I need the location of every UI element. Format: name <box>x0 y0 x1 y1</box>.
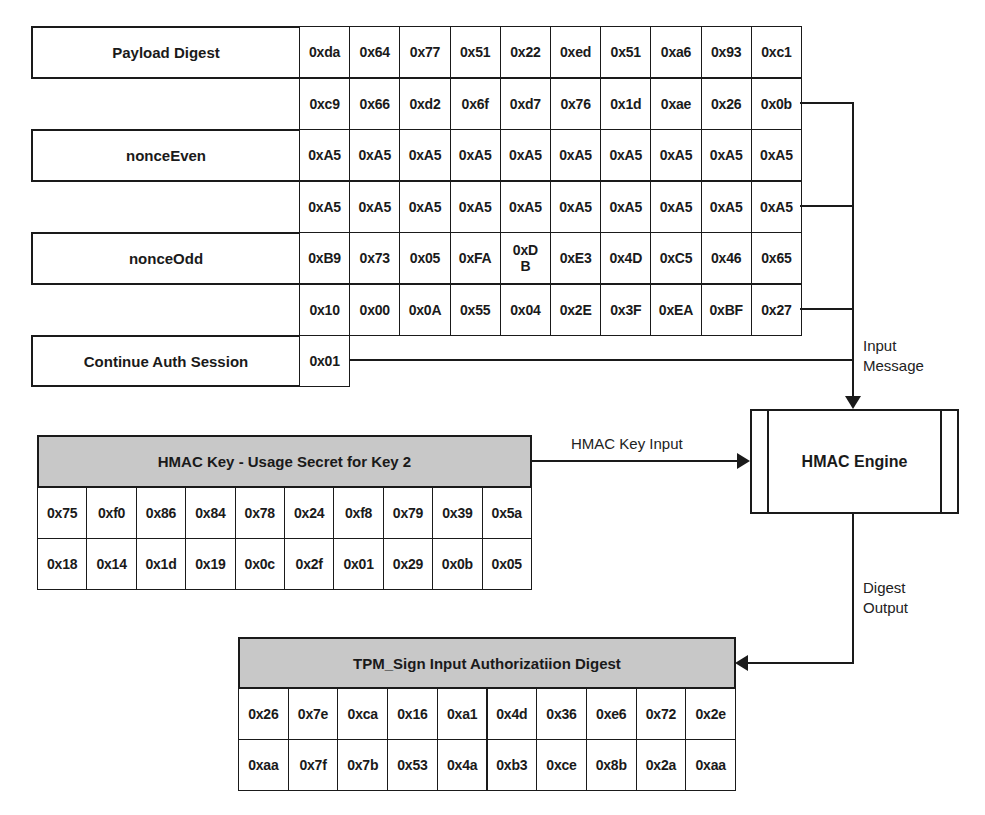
byte-cell: 0xA5 <box>550 181 601 233</box>
byte-cell: 0x72 <box>636 688 687 740</box>
byte-cell: 0xb3 <box>487 739 538 791</box>
byte-cell: 0x7b <box>337 739 388 791</box>
digest-output-label-line1: Digest <box>863 578 908 598</box>
byte-cell: 0x1d <box>136 538 186 590</box>
byte-cell: 0xA5 <box>450 129 501 181</box>
byte-cell: 0xd2 <box>399 78 450 130</box>
engine-right-bar <box>940 411 942 512</box>
byte-cell: 0xd7 <box>500 78 551 130</box>
byte-cell: 0x78 <box>235 487 285 539</box>
hmac-engine-block: HMAC Engine <box>750 409 959 514</box>
byte-cell: 0xA5 <box>500 129 551 181</box>
byte-cell: 0xA5 <box>751 181 802 233</box>
byte-cell: 0x0c <box>235 538 285 590</box>
byte-cell: 0xce <box>536 739 587 791</box>
field-label-payload-digest: Payload Digest <box>31 26 301 79</box>
field-label-nonce-odd: nonceOdd <box>31 232 301 285</box>
byte-cell: 0x55 <box>450 284 501 336</box>
byte-cell: 0x4d <box>487 688 538 740</box>
byte-cell: 0x3F <box>600 284 651 336</box>
byte-cell: 0x0A <box>399 284 450 336</box>
byte-cell: 0xA5 <box>399 181 450 233</box>
byte-cell: 0x2a <box>636 739 687 791</box>
byte-cell: 0xB9 <box>299 232 350 284</box>
byte-cell: 0xA5 <box>299 181 350 233</box>
byte-cell: 0xc1 <box>751 26 802 78</box>
byte-cell: 0x22 <box>500 26 551 78</box>
hmac-engine-label: HMAC Engine <box>802 453 908 471</box>
output-digest-header: TPM_Sign Input Authorizatiion Digest <box>238 637 736 689</box>
hmac-key-input-label: HMAC Key Input <box>571 434 683 454</box>
byte-cell: 0x6f <box>450 78 501 130</box>
byte-cell: 0xE3 <box>550 232 601 284</box>
byte-cell: 0xa6 <box>650 26 701 78</box>
byte-cell: 0x64 <box>349 26 400 78</box>
byte-cell: 0x0b <box>751 78 802 130</box>
byte-cell: 0x46 <box>701 232 752 284</box>
hmac-key-header: HMAC Key - Usage Secret for Key 2 <box>37 435 532 488</box>
digest-output-label: Digest Output <box>863 578 908 618</box>
byte-cell: 0x1d <box>600 78 651 130</box>
byte-cell: 0xC5 <box>650 232 701 284</box>
byte-cell: 0x27 <box>751 284 802 336</box>
byte-cell: 0x2f <box>284 538 334 590</box>
byte-cell: 0x51 <box>450 26 501 78</box>
byte-cell: 0xA5 <box>701 181 752 233</box>
byte-cell: 0x84 <box>185 487 235 539</box>
byte-cell: 0xca <box>337 688 388 740</box>
byte-cell: 0x77 <box>399 26 450 78</box>
byte-cell: 0x51 <box>600 26 651 78</box>
byte-cell: 0xA5 <box>550 129 601 181</box>
byte-cell: 0x2e <box>685 688 736 740</box>
byte-cell: 0x4a <box>437 739 488 791</box>
byte-cell: 0x2E <box>550 284 601 336</box>
byte-cell: 0xDB <box>500 232 551 284</box>
byte-cell: 0xaa <box>685 739 736 791</box>
byte-cell: 0xf0 <box>86 487 136 539</box>
byte-cell: 0x7e <box>288 688 339 740</box>
byte-cell: 0x19 <box>185 538 235 590</box>
byte-cell: 0x26 <box>238 688 289 740</box>
byte-cell: 0xed <box>550 26 601 78</box>
byte-cell: 0x53 <box>387 739 438 791</box>
byte-cell: 0x4D <box>600 232 651 284</box>
byte-cell: 0xf8 <box>333 487 383 539</box>
byte-cell: 0x16 <box>387 688 438 740</box>
byte-cell: 0xA5 <box>399 129 450 181</box>
byte-cell: 0x05 <box>482 538 532 590</box>
arrow-left-icon <box>735 655 749 671</box>
byte-cell: 0x5a <box>482 487 532 539</box>
arrow-right-icon <box>737 453 751 469</box>
engine-left-bar <box>767 411 769 512</box>
byte-cell: 0x01 <box>333 538 383 590</box>
byte-cell: 0xaa <box>238 739 289 791</box>
digest-output-connector <box>746 662 854 664</box>
key-input-connector <box>531 460 739 462</box>
byte-cell: 0x76 <box>550 78 601 130</box>
byte-cell: 0xA5 <box>299 129 350 181</box>
byte-cell: 0x65 <box>751 232 802 284</box>
byte-cell: 0xBF <box>701 284 752 336</box>
input-message-bus <box>852 102 854 400</box>
byte-cell: 0xe6 <box>586 688 637 740</box>
byte-cell: 0xA5 <box>349 181 400 233</box>
input-message-label-line1: Input <box>863 336 924 356</box>
byte-cell: 0xA5 <box>701 129 752 181</box>
byte-cell: 0x8b <box>586 739 637 791</box>
byte-cell: 0x29 <box>383 538 433 590</box>
byte-cell: 0x66 <box>349 78 400 130</box>
byte-cell: 0x05 <box>399 232 450 284</box>
byte-cell: 0xFA <box>450 232 501 284</box>
byte-cell: 0xA5 <box>600 181 651 233</box>
input-message-label: Input Message <box>863 336 924 376</box>
byte-cell: 0xA5 <box>349 129 400 181</box>
arrow-down-icon <box>845 396 861 410</box>
connector-continue-auth <box>349 359 854 361</box>
byte-cell: 0xae <box>650 78 701 130</box>
field-label-nonce-even: nonceEven <box>31 129 301 182</box>
byte-cell: 0x00 <box>349 284 400 336</box>
connector-nonce-odd <box>800 308 854 310</box>
connector-nonce-even <box>800 205 854 207</box>
byte-cell: 0x73 <box>349 232 400 284</box>
byte-cell: 0x04 <box>500 284 551 336</box>
